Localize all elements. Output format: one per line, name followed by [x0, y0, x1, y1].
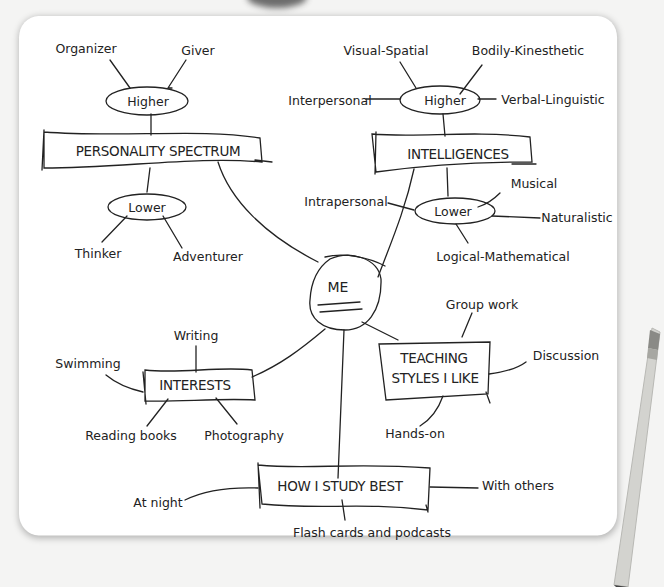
- node-at-night: At night: [133, 495, 182, 510]
- box-personality-label: PERSONALITY SPECTRUM: [76, 143, 241, 159]
- node-adventurer: Adventurer: [173, 249, 243, 264]
- node-musical: Musical: [511, 176, 558, 191]
- node-visual-spatial: Visual-Spatial: [344, 43, 429, 58]
- box-intelligences-label: INTELLIGENCES: [407, 146, 509, 162]
- box-interests-label: INTERESTS: [159, 377, 230, 393]
- node-swimming: Swimming: [55, 356, 120, 371]
- node-flash-cards: Flash cards and podcasts: [293, 525, 451, 540]
- oval-higher-label: Higher: [127, 94, 169, 109]
- node-discussion: Discussion: [533, 348, 599, 363]
- node-intrapersonal: Intrapersonal: [304, 194, 387, 209]
- box-teaching-line2: STYLES I LIKE: [391, 370, 478, 386]
- node-logical-mathematical: Logical-Mathematical: [436, 249, 570, 264]
- node-with-others: With others: [482, 478, 554, 493]
- oval-lower-label: Lower: [128, 200, 165, 215]
- box-teaching-line1: TEACHING: [400, 350, 468, 366]
- node-giver: Giver: [181, 43, 214, 58]
- node-organizer: Organizer: [55, 41, 116, 56]
- node-thinker: Thinker: [75, 246, 122, 261]
- box-study-label: HOW I STUDY BEST: [277, 478, 402, 494]
- oval-lower-intel-label: Lower: [434, 204, 471, 219]
- node-interpersonal: Interpersonal: [288, 93, 371, 108]
- node-verbal-linguistic: Verbal-Linguistic: [501, 92, 604, 107]
- node-bodily-kinesthetic: Bodily-Kinesthetic: [472, 43, 584, 58]
- node-reading-books: Reading books: [85, 428, 177, 443]
- node-group-work: Group work: [446, 297, 518, 312]
- node-writing: Writing: [174, 328, 219, 343]
- oval-higher-intel-label: Higher: [424, 93, 466, 108]
- node-photography: Photography: [204, 428, 284, 443]
- node-hands-on: Hands-on: [385, 426, 445, 441]
- node-naturalistic: Naturalistic: [541, 210, 612, 225]
- center-me-label: ME: [328, 279, 349, 295]
